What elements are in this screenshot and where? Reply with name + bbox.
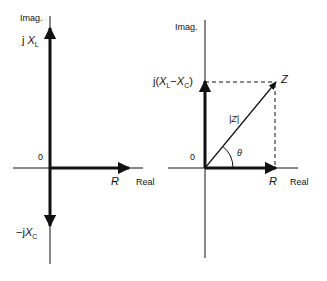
impedance-phasor-figure: Imag. jXL 0 R Real −jXC Imag. j(XL−XC) Z…: [0, 0, 327, 281]
left-phasor-diagram: Imag. jXL 0 R Real −jXC: [13, 13, 155, 264]
left-xc-label: −jXC: [16, 226, 37, 240]
right-phasor-diagram: Imag. j(XL−XC) Z |Z| θ 0 R Real: [152, 20, 309, 258]
z-label: Z: [280, 73, 289, 85]
left-imag-label: Imag.: [20, 13, 43, 23]
right-real-label: Real: [290, 177, 309, 187]
left-origin-label: 0: [38, 152, 43, 162]
right-reactance-label: j(XL−XC): [152, 75, 193, 89]
theta-label: θ: [237, 148, 242, 158]
left-xl-label: jXL: [21, 34, 39, 48]
left-real-label: Real: [136, 177, 155, 187]
z-magnitude-label: |Z|: [229, 114, 239, 124]
right-origin-label: 0: [190, 152, 195, 162]
left-r-label: R: [111, 175, 119, 187]
right-r-label: R: [269, 175, 277, 187]
right-imag-label: Imag.: [175, 22, 198, 32]
theta-angle-arc: [223, 146, 233, 168]
